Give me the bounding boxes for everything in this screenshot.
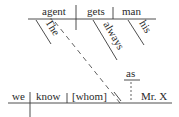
main-verb: gets	[87, 5, 105, 17]
main-object: man	[122, 5, 141, 17]
sentence-diagram: agent gets man The always his we know [w…	[0, 0, 179, 117]
sub-object: [whom]	[72, 90, 107, 102]
complement-mr-x: Mr. X	[141, 90, 167, 102]
sub-subject: we	[12, 90, 25, 102]
complement-marker-as: as	[126, 67, 135, 79]
main-subject: agent	[42, 5, 66, 17]
sub-verb: know	[36, 90, 61, 102]
modifier-his: his	[137, 18, 154, 35]
modifier-always: always	[101, 19, 127, 51]
modifier-the: The	[43, 17, 62, 38]
